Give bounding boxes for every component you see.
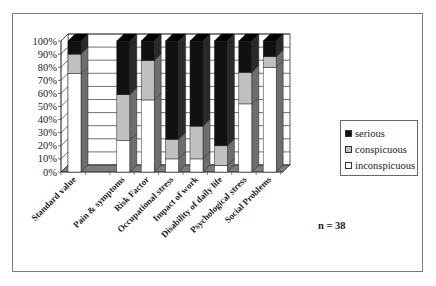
y-tick-label: 90%	[38, 49, 58, 60]
legend-swatch-inconspicuous	[345, 162, 352, 169]
bar-segment-serious	[190, 41, 203, 126]
y-tick-label: 80%	[38, 62, 58, 73]
y-tick-label: 10%	[38, 153, 58, 164]
bar-segment-conspicuous	[166, 139, 179, 159]
bar-stack	[239, 34, 259, 172]
bar-stack	[166, 34, 186, 172]
bar-segment-serious	[239, 41, 252, 72]
bar-segment-serious	[166, 41, 179, 139]
legend-label: serious	[355, 128, 385, 139]
y-tick-label: 100%	[33, 36, 58, 47]
bar-segment-inconspicuous	[239, 104, 252, 172]
x-category-label: Standard value	[29, 174, 78, 223]
legend-swatch-serious	[345, 130, 352, 137]
legend-item-serious: serious	[345, 125, 417, 141]
legend-swatch-conspicuous	[345, 146, 352, 153]
bar-segment-serious	[214, 41, 227, 146]
bar-segment-conspicuous	[263, 57, 276, 67]
bar-stack	[214, 34, 234, 172]
bar-segment-inconspicuous	[141, 100, 154, 172]
legend-item-conspicuous: conspicuous	[345, 141, 417, 157]
legend-label: inconspicuous	[355, 160, 415, 171]
bar-stack	[263, 34, 283, 172]
bar-segment-inconspicuous	[166, 159, 179, 172]
y-tick-label: 40%	[38, 114, 58, 125]
bar-segment-serious	[68, 41, 81, 54]
bar-segment-serious	[263, 41, 276, 57]
bar-segment-conspicuous	[239, 72, 252, 103]
bar-segment-conspicuous	[214, 146, 227, 166]
bar-segment-serious	[141, 41, 154, 61]
y-tick-label: 50%	[38, 101, 58, 112]
y-tick-label: 20%	[38, 140, 58, 151]
bar-segment-serious	[117, 41, 130, 95]
bar-stack	[190, 34, 210, 172]
bar-stack	[68, 34, 88, 172]
y-tick-label: 30%	[38, 127, 58, 138]
bar-segment-conspicuous	[190, 126, 203, 159]
bar-segment-inconspicuous	[68, 74, 81, 172]
y-tick-label: 0%	[43, 167, 57, 178]
bar-stack	[117, 34, 137, 172]
y-tick-label: 70%	[38, 75, 58, 86]
bar-segment-inconspicuous	[117, 141, 130, 172]
bar-stack	[141, 34, 161, 172]
bar-segment-conspicuous	[68, 54, 81, 74]
legend-label: conspicuous	[355, 144, 407, 155]
bar-segment-conspicuous	[117, 95, 130, 141]
bar-segment-inconspicuous	[214, 165, 227, 172]
sample-size-label: n = 38	[318, 220, 346, 231]
bar-segment-inconspicuous	[190, 159, 203, 172]
legend: serious conspicuous inconspicuous	[340, 120, 418, 176]
bar-segment-inconspicuous	[263, 67, 276, 172]
bar-segment-conspicuous	[141, 61, 154, 100]
y-tick-label: 60%	[38, 88, 58, 99]
legend-item-inconspicuous: inconspicuous	[345, 157, 417, 173]
